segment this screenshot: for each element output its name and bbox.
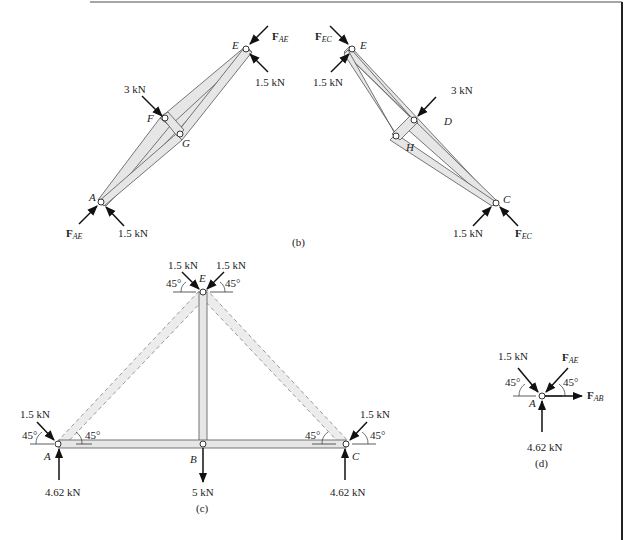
joint-label-C-truss: C [352,450,360,462]
load-label-B: 5 kN [192,486,214,498]
load-arrow-E-right [207,272,224,289]
joint-label-E-truss: E [198,272,206,284]
joint-pin-A-fbd [539,393,545,399]
load-arrow-E-left [182,272,199,289]
angle-label-C-inner: 45° [305,429,320,441]
panel-d-joint-A: 1.5 kN FAE FAB 4.62 kN A 45° 45° [498,350,604,453]
joint-label-E: E [231,39,239,51]
angle-label-left-fbd: 45° [505,376,520,388]
joint-pin-C-truss [343,441,349,447]
load-arrow-1.5kN-bottom-right [473,207,491,226]
panel-c-truss: E A B C 1.5 kN 1.5 kN 1.5 kN 1.5 kN 4.62… [20,259,390,498]
load-label-1.5kN-bottom: 1.5 kN [118,227,148,239]
joint-pin-D [411,117,417,123]
joint-pin-A [98,199,104,205]
force-arrow-FAE-bottom [79,206,97,224]
joint-label-G: G [182,137,190,149]
force-label-FAE-fbd: FAE [562,351,579,365]
joint-label-F: F [146,112,154,124]
load-arrow-C-applied [350,422,367,440]
reaction-label-A: 4.62 kN [45,486,81,498]
angle-label-E-right: 45° [225,277,240,289]
load-label-C-applied: 1.5 kN [360,408,390,420]
load-label-1.5kN-fbd: 1.5 kN [498,350,528,362]
joint-pin-A-truss [55,441,61,447]
panel-d-caption: (d) [535,457,548,470]
load-arrow-1.5kN-top [250,54,268,72]
load-label-1.5kN-top: 1.5 kN [255,76,285,88]
angle-label-right-fbd: 45° [563,376,578,388]
joint-label-C: C [503,193,511,205]
load-arrow-1.5kN-top-right [331,54,349,72]
angle-label-E-left: 45° [166,277,181,289]
reaction-label-C: 4.62 kN [330,486,366,498]
joint-pin-F [162,115,168,121]
joint-label-E-right: E [359,39,367,51]
load-arrow-1.5kN-bottom [106,207,124,226]
panel-b-caption: (b) [292,236,305,249]
joint-label-A: A [88,191,96,203]
joint-pin-H [393,133,399,139]
force-label-FAB-fbd: FAB [587,389,604,403]
truss-free-body-diagram: E F G A FAE 1.5 kN 3 kN FAE 1.5 kN E D H… [0,0,633,540]
reaction-label-fbd: 4.62 kN [527,441,563,453]
load-label-E-right: 1.5 kN [216,259,246,271]
panel-b-right-member: E D H C FEC 1.5 kN 3 kN 1.5 kN FEC [313,26,533,241]
load-label-A-applied: 1.5 kN [20,408,50,420]
joint-label-A-truss: A [43,450,51,462]
load-arrow-A-applied [37,422,54,440]
joint-pin-E [243,46,249,52]
joint-pin-B-truss [200,441,206,447]
joint-pin-C [493,200,499,206]
force-arrow-FEC-top [330,26,348,44]
joint-label-B-truss: B [190,453,197,465]
angle-label-A-outer: 45° [22,429,37,441]
angle-label-C-outer: 45° [370,429,385,441]
load-arrow-3kN-right [418,97,436,116]
load-label-3kN-right: 3 kN [451,84,473,96]
panel-b-left-member: E F G A FAE 1.5 kN 3 kN FAE 1.5 kN [66,26,289,241]
force-label-FEC-bottom: FEC [515,227,533,241]
load-label-1.5kN-bottom-right: 1.5 kN [453,227,483,239]
force-arrow-FEC-bottom [500,207,518,226]
force-label-FAE-bottom: FAE [66,227,83,241]
force-label-FEC-top: FEC [315,30,333,44]
joint-label-A-fbd: A [528,397,536,409]
joint-pin-E-truss [200,289,206,295]
force-label-FAE-top: FAE [272,30,289,44]
load-label-3kN: 3 kN [124,83,146,95]
load-label-1.5kN-top-right: 1.5 kN [313,76,343,88]
panel-c-caption: (c) [196,502,209,515]
force-arrow-FAE-top [250,26,268,44]
load-label-E-left: 1.5 kN [168,259,198,271]
joint-label-D: D [443,115,452,127]
joint-pin-E-right [349,46,355,52]
angle-label-A-inner: 45° [85,429,100,441]
joint-label-H: H [405,141,415,153]
